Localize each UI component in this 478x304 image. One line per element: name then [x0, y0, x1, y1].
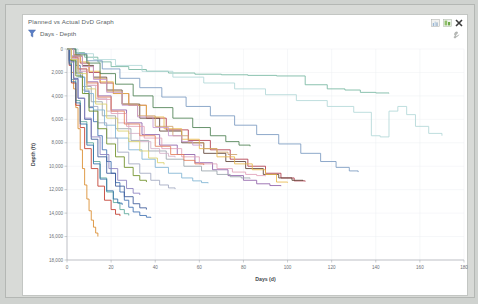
- svg-text:100: 100: [284, 265, 292, 270]
- svg-text:0: 0: [60, 47, 63, 52]
- close-icon[interactable]: [455, 19, 463, 27]
- svg-text:120: 120: [328, 265, 336, 270]
- svg-text:18,000: 18,000: [49, 258, 63, 263]
- svg-text:12,000: 12,000: [49, 187, 63, 192]
- x-axis-title: Days (d): [255, 276, 276, 282]
- filter-label: Days - Depth: [40, 30, 76, 37]
- svg-text:60: 60: [197, 265, 203, 270]
- svg-text:0: 0: [66, 265, 69, 270]
- window-controls[interactable]: [431, 19, 463, 27]
- svg-text:180: 180: [460, 265, 468, 270]
- svg-text:6,000: 6,000: [52, 117, 64, 122]
- filter-bar[interactable]: Days - Depth: [28, 29, 76, 38]
- plot-area: 02040608010012014016018002,0004,0006,000…: [23, 41, 469, 295]
- svg-text:20: 20: [109, 265, 115, 270]
- window-frame: Planned vs Actual DvD Graph Days - Depth: [5, 4, 475, 298]
- svg-text:40: 40: [153, 265, 159, 270]
- funnel-icon[interactable]: [28, 29, 36, 38]
- dvd-chart: 02040608010012014016018002,0004,0006,000…: [23, 41, 469, 295]
- svg-text:4,000: 4,000: [52, 94, 64, 99]
- y-axis-title: Depth (ft): [30, 143, 36, 166]
- settings-wrench-icon[interactable]: [451, 31, 460, 40]
- chart-view-icon[interactable]: [431, 19, 440, 27]
- svg-text:160: 160: [416, 265, 424, 270]
- svg-text:14,000: 14,000: [49, 211, 63, 216]
- page-title: Planned vs Actual DvD Graph: [28, 18, 114, 25]
- grid-view-icon[interactable]: [443, 19, 452, 27]
- svg-text:10,000: 10,000: [49, 164, 63, 169]
- svg-text:80: 80: [241, 265, 247, 270]
- svg-text:8,000: 8,000: [52, 140, 64, 145]
- svg-text:140: 140: [372, 265, 380, 270]
- axes: [65, 49, 465, 263]
- svg-text:2,000: 2,000: [52, 70, 64, 75]
- grid-lines: [67, 49, 464, 260]
- chart-panel: Planned vs Actual DvD Graph Days - Depth: [22, 14, 468, 296]
- svg-text:16,000: 16,000: [49, 234, 63, 239]
- screenshot-root: Planned vs Actual DvD Graph Days - Depth: [0, 0, 478, 304]
